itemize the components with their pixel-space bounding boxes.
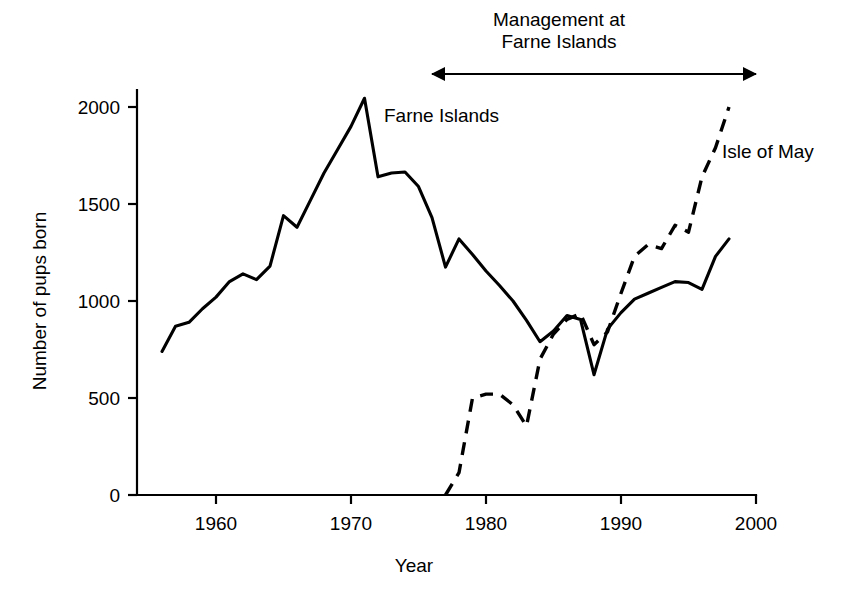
y-tick-label-2000: 2000	[78, 97, 120, 118]
y-tick-label-1500: 1500	[78, 194, 120, 215]
y-tick-label-0: 0	[109, 485, 120, 506]
series-label-isle-of-may: Isle of May	[722, 141, 814, 162]
y-axis-title: Number of pups born	[29, 212, 50, 391]
x-tick-label-1960: 1960	[195, 513, 237, 534]
management-annotation-line2: Farne Islands	[501, 31, 616, 52]
pup-production-chart: 0500100015002000 19601970198019902000 Ma…	[0, 0, 843, 598]
x-axis-title: Year	[395, 555, 434, 576]
x-tick-label-1990: 1990	[600, 513, 642, 534]
series-label-farne-islands: Farne Islands	[384, 105, 499, 126]
y-tick-label-1000: 1000	[78, 291, 120, 312]
chart-background	[0, 0, 843, 598]
x-tick-label-2000: 2000	[735, 513, 777, 534]
y-tick-label-500: 500	[88, 388, 120, 409]
management-annotation-line1: Management at	[493, 9, 626, 30]
x-tick-label-1970: 1970	[330, 513, 372, 534]
x-tick-label-1980: 1980	[465, 513, 507, 534]
